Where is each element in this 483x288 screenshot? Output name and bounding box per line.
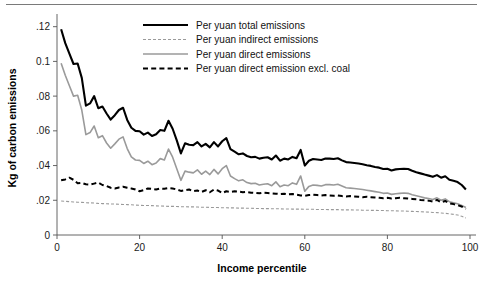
y-axis-tick-label: .02 [36, 195, 50, 206]
x-axis-tick-label: 0 [54, 242, 60, 253]
legend-label-1: Per yuan indirect emissions [196, 34, 318, 45]
legend-label-3: Per yuan direct emission excl. coal [196, 63, 350, 74]
y-axis-tick-label: .06 [36, 125, 50, 136]
x-axis-tick-label: 20 [134, 242, 146, 253]
legend-label-0: Per yuan total emissions [196, 20, 305, 31]
y-axis: 0.02.04.06.080.1.12 [36, 14, 57, 241]
x-axis-tick-label: 100 [462, 242, 479, 253]
y-axis-tick-label: .08 [36, 91, 50, 102]
chart-legend: Per yuan total emissionsPer yuan indirec… [143, 20, 350, 75]
y-axis-tick-label: .12 [36, 21, 50, 32]
emissions-line-chart: 0.02.04.06.080.1.12 020406080100 Per yua… [0, 0, 483, 288]
figure-container: 0.02.04.06.080.1.12 020406080100 Per yua… [0, 0, 483, 288]
y-axis-tick-label: 0 [44, 230, 50, 241]
y-axis-tick-label: 0.1 [36, 56, 50, 67]
y-axis-tick-label: .04 [36, 160, 50, 171]
x-axis-tick-label: 80 [382, 242, 394, 253]
x-axis-tick-label: 60 [299, 242, 311, 253]
series-line-1 [61, 201, 466, 218]
y-axis-title: Kg of carbon emissions [6, 68, 18, 187]
x-axis-title: Income percentile [217, 262, 306, 274]
x-axis-tick-label: 40 [217, 242, 229, 253]
x-axis: 020406080100 [54, 235, 479, 253]
series-line-2 [61, 63, 466, 207]
legend-label-2: Per yuan direct emissions [196, 49, 311, 60]
top-horizontal-rule [6, 4, 477, 5]
